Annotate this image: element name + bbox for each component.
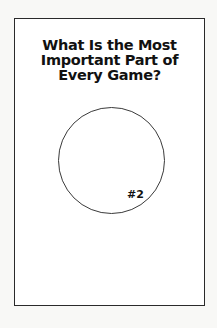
title-line-3: Every Game? [14, 68, 205, 83]
page: What Is the Most Important Part of Every… [0, 0, 217, 328]
title-line-1: What Is the Most [14, 38, 205, 53]
circle-label: #2 [127, 188, 144, 201]
card-title: What Is the Most Important Part of Every… [14, 38, 205, 83]
title-line-2: Important Part of [14, 53, 205, 68]
circle-shape [58, 107, 165, 214]
